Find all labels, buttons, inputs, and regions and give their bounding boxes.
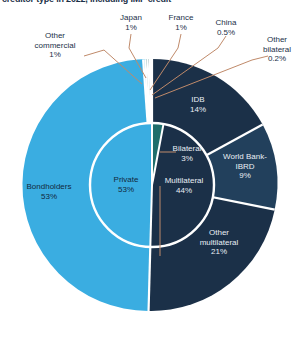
callout-china-l2: 0.5% [206, 28, 246, 38]
callout-other-commercial-l2: commercial [24, 41, 86, 51]
label-idb-l2: 14% [178, 105, 218, 115]
label-other-multilateral: Other multilateral 21% [186, 228, 252, 257]
label-bilateral-l2: 3% [161, 154, 213, 164]
label-multilateral: Multilateral 44% [152, 176, 216, 195]
label-bilateral: Bilateral 3% [161, 144, 213, 163]
callout-france-l2: 1% [160, 23, 202, 33]
callout-other-bilateral-l3: 0.2% [252, 54, 302, 64]
callout-france-l1: France [160, 13, 202, 23]
label-idb-l1: IDB [178, 95, 218, 105]
label-bilateral-l1: Bilateral [161, 144, 213, 154]
label-idb: IDB 14% [178, 95, 218, 114]
label-bondholders: Bondholders 53% [14, 182, 84, 201]
callout-other-commercial-l1: Other [24, 31, 86, 41]
label-wb-l2: IBRD [212, 162, 278, 172]
callout-japan-l1: Japan [111, 13, 151, 23]
label-othermulti-l1: Other [186, 228, 252, 238]
label-private-l1: Private [95, 175, 157, 185]
label-bondholders-l1: Bondholders [14, 182, 84, 192]
callout-france: France 1% [160, 13, 202, 32]
label-bondholders-l2: 53% [14, 192, 84, 202]
callout-other-commercial: Other commercial 1% [24, 31, 86, 60]
label-multilateral-l2: 44% [152, 186, 216, 196]
label-world-bank-ibrd: World Bank- IBRD 9% [212, 152, 278, 181]
label-othermulti-l3: 21% [186, 247, 252, 257]
label-wb-l1: World Bank- [212, 152, 278, 162]
pie-chart-figure: creditor type in 2022, including IMF cre… [0, 0, 306, 350]
label-othermulti-l2: multilateral [186, 238, 252, 248]
callout-japan: Japan 1% [111, 13, 151, 32]
label-private: Private 53% [95, 175, 157, 194]
callout-other-commercial-l3: 1% [24, 50, 86, 60]
callout-china: China 0.5% [206, 18, 246, 37]
callout-other-bilateral: Other bilateral 0.2% [252, 35, 302, 64]
callout-japan-l2: 1% [111, 23, 151, 33]
label-multilateral-l1: Multilateral [152, 176, 216, 186]
callout-china-l1: China [206, 18, 246, 28]
label-wb-l3: 9% [212, 171, 278, 181]
label-private-l2: 53% [95, 185, 157, 195]
callout-other-bilateral-l2: bilateral [252, 45, 302, 55]
callout-other-bilateral-l1: Other [252, 35, 302, 45]
